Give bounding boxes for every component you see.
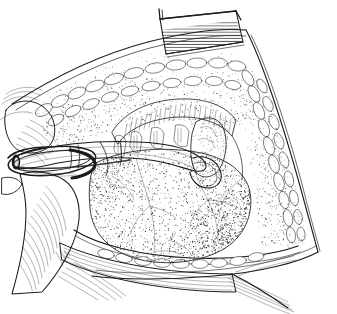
- surgical-illustration-figure: Surgical field illustration: a retracted…: [0, 0, 337, 314]
- illustration-canvas: [0, 0, 337, 314]
